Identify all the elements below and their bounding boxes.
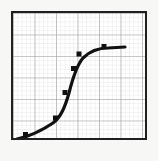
major-gridlines [13, 13, 145, 138]
grid-layer [13, 13, 145, 138]
figure-container [0, 0, 158, 161]
plot-area [11, 11, 147, 140]
